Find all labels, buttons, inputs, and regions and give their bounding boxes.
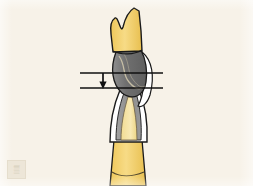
- lower-root-gold-shape: [110, 140, 146, 186]
- dental-crown-seating-illustration: [0, 0, 253, 186]
- figure-canvas: ▒: [0, 0, 253, 186]
- watermark-glyph: ▒: [14, 166, 20, 174]
- image-watermark: ▒: [7, 160, 26, 179]
